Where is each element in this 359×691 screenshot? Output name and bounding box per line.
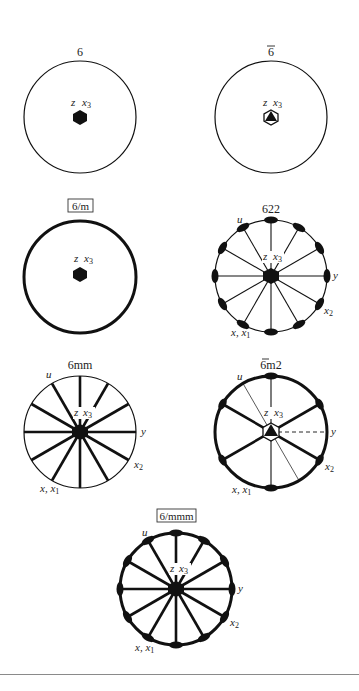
u-label: u — [142, 526, 148, 538]
diagram-title: 622 — [262, 202, 280, 216]
diagram-title: 6/m — [72, 200, 90, 212]
y-label: y — [330, 425, 336, 437]
x2-label: x2 — [324, 460, 334, 474]
axis-labels: z x3 — [73, 252, 93, 266]
axis-labels: z x3 — [262, 96, 282, 110]
diagram-6bar: 6 z x3 — [215, 45, 327, 173]
y-label: y — [140, 425, 146, 437]
x3-label: x3 — [272, 96, 282, 110]
z-label: z — [70, 96, 76, 108]
x2-label: x2 — [323, 304, 333, 318]
bottom-divider — [0, 674, 359, 675]
rotoinversion-axis-icon — [264, 110, 278, 125]
diagram-6bar-m2: 6m2 z x3 u y — [215, 358, 336, 497]
axis-labels: z x3 u y x2 x, x1 — [231, 370, 336, 497]
u-label: u — [237, 213, 243, 225]
hexagonal-point-groups-figure: 6 z x3 6 z x3 6/m z x3 622 — [0, 0, 359, 691]
z-label: z — [73, 406, 79, 418]
z-label: z — [73, 252, 79, 264]
diagram-6-over-m: 6/m z x3 — [24, 199, 136, 333]
x3-label: x3 — [81, 96, 91, 110]
y-label: y — [332, 269, 338, 281]
u-label: u — [237, 370, 243, 382]
diagram-622: 622 z x3 u — [212, 202, 339, 340]
diagram-title: 6mm — [68, 358, 93, 372]
z-label: z — [262, 250, 268, 262]
z-label: z — [262, 96, 268, 108]
diagram-title: 6 — [268, 45, 274, 59]
x2-label: x2 — [229, 616, 239, 630]
sixfold-rotation-axis-icon — [168, 581, 184, 597]
u-label: u — [46, 368, 52, 380]
z-label: z — [263, 406, 269, 418]
diagram-6: 6 z x3 — [24, 45, 136, 173]
z-label: z — [169, 562, 175, 574]
diagram-6mm: 6mm z x3 u y x2 x, x1 — [24, 358, 146, 496]
diagram-title: 6 — [77, 45, 83, 59]
sixfold-rotation-axis-icon — [73, 267, 87, 282]
sixfold-rotation-axis-icon — [263, 268, 279, 284]
rotoinversion-axis-icon — [263, 423, 279, 441]
axis-labels: z x3 — [70, 96, 91, 110]
x1-label: x, x1 — [39, 482, 59, 496]
x3-label: x3 — [83, 252, 93, 266]
diagram-title: 6/mmm — [159, 510, 194, 522]
sixfold-rotation-axis-icon — [72, 424, 88, 440]
diagram-title: 6m2 — [260, 358, 281, 372]
diagram-6-over-mmm: 6/mmm z x3 u — [117, 509, 244, 655]
x1-label: x, x1 — [134, 641, 154, 655]
x2-label: x2 — [133, 458, 143, 472]
sixfold-rotation-axis-icon — [73, 110, 87, 125]
x1-label: x, x1 — [231, 483, 251, 497]
y-label: y — [237, 582, 243, 594]
